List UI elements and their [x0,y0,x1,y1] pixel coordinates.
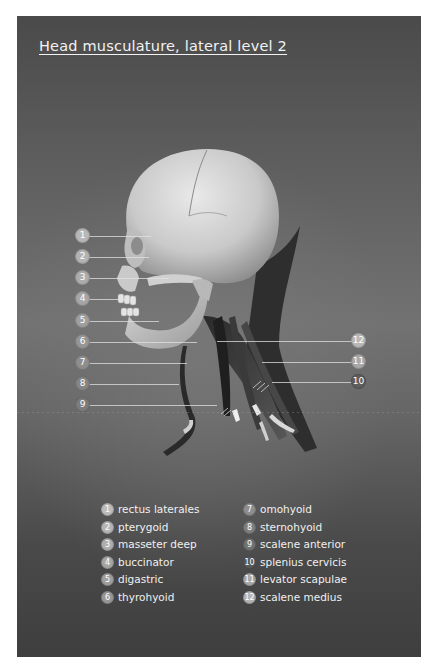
legend-label: digastric [118,572,163,587]
legend-label: masseter deep [118,537,197,552]
callout-badge[interactable]: 7 [75,355,90,370]
skull-mandible [125,286,209,349]
leader-line [272,382,352,383]
leader-line [89,257,149,258]
legend-label: buccinator [118,555,174,570]
legend-badge: 8 [243,521,256,534]
legend-badge: 11 [243,573,256,586]
leader-line [89,278,169,279]
callout-badge[interactable]: 10 [351,374,366,389]
leader-line [89,342,197,343]
leader-line [217,341,352,342]
legend-badge: 7 [243,503,256,516]
leader-line [89,405,217,406]
leader-line [89,299,129,300]
legend-label: sternohyoid [260,520,322,535]
legend-label: omohyoid [260,502,312,517]
legend-label: scalene anterior [260,537,345,552]
legend-label: levator scapulae [260,572,347,587]
leader-line [89,363,187,364]
legend-label: scalene medius [260,590,342,605]
leader-line [262,362,352,363]
legend-badge: 1 [101,503,114,516]
callout-badge[interactable]: 1 [75,228,90,243]
callout-badge[interactable]: 3 [75,270,90,285]
callout-badge[interactable]: 6 [75,334,90,349]
callout-badge[interactable]: 8 [75,376,90,391]
callout-badge[interactable]: 5 [75,313,90,328]
legend-badge: 9 [243,538,256,551]
callout-badge[interactable]: 11 [351,354,366,369]
separator [17,412,421,413]
skull-cranium [126,149,279,283]
legend-badge: 3 [101,538,114,551]
legend-badge: 12 [243,591,256,604]
diagram-panel: Head musculature, lateral level 2 [17,16,421,657]
legend-badge: 10 [243,556,256,569]
legend-label: thyrohyoid [118,590,174,605]
legend-badge: 5 [101,573,114,586]
legend-label: splenius cervicis [260,555,346,570]
callout-badge[interactable]: 4 [75,291,90,306]
legend-badge: 2 [101,521,114,534]
legend-badge: 6 [101,591,114,604]
leader-line [89,321,159,322]
callout-badge[interactable]: 9 [75,397,90,412]
legend-label: pterygoid [118,520,168,535]
callout-badge[interactable]: 12 [351,333,366,348]
legend-label: rectus laterales [118,502,199,517]
legend-badge: 4 [101,556,114,569]
leader-line [89,384,179,385]
leader-line [89,236,151,237]
callout-badge[interactable]: 2 [75,249,90,264]
